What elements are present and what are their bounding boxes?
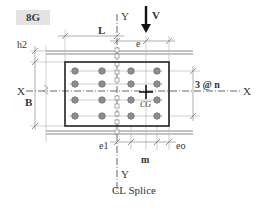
bolted-splice-diagram: Y V L e h2 X B 3 @ n X CG e1 m eo Y CL S… (0, 0, 263, 210)
bolt-rows-label: 3 @ n (195, 79, 220, 90)
cg-cross-icon (139, 85, 153, 99)
y-axis-label-top: Y (121, 10, 129, 22)
x-axis-label-right: X (243, 85, 251, 97)
eo-label: eo (176, 140, 185, 151)
length-label: L (98, 24, 105, 36)
top-flange (46, 51, 193, 54)
load-label: V (152, 9, 160, 21)
eccentricity-label: e (136, 38, 141, 49)
load-arrow-icon (141, 6, 151, 33)
bolt-group (72, 68, 161, 120)
cg-label: CG (140, 100, 151, 109)
dimension-ticks (32, 33, 196, 145)
bottom-flange (46, 131, 193, 134)
h2-label: h2 (17, 39, 27, 50)
width-label: B (25, 96, 33, 108)
x-axis-label-left: X (17, 85, 25, 97)
break-mark (44, 85, 48, 94)
y-axis-label-bottom: Y (121, 168, 129, 180)
splice-label: CL Splice (112, 184, 156, 196)
e1-label: e1 (99, 140, 108, 151)
pitch-label: m (141, 154, 150, 165)
